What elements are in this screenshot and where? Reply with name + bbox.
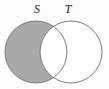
set-label-s: S [34, 2, 40, 16]
venn-diagram-svg: S T [0, 0, 109, 89]
venn-diagram-figure: S T [0, 0, 109, 89]
